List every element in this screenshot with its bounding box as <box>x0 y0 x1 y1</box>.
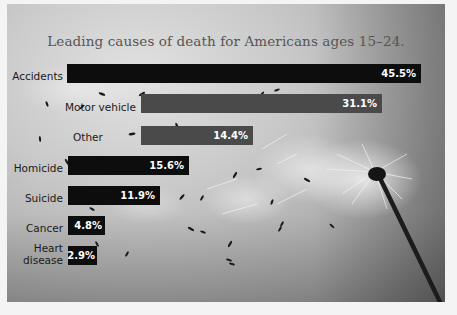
bar-homicide: 15.6% <box>68 156 189 175</box>
chart-title: Leading causes of death for Americans ag… <box>7 33 445 49</box>
category-label: Accidents <box>7 70 63 82</box>
category-label: Cancer <box>7 222 63 234</box>
category-label: Other <box>73 131 103 143</box>
bar-heart-disease: 2.9% <box>68 246 97 265</box>
category-label: Motor vehicle <box>7 101 136 113</box>
category-label: Heart disease <box>7 242 63 266</box>
value-label: 15.6% <box>149 160 189 171</box>
category-label-line2: disease <box>7 254 63 266</box>
bar-motor-vehicle: 31.1% <box>141 94 382 113</box>
value-label: 4.8% <box>74 220 105 231</box>
category-label: Suicide <box>7 192 63 204</box>
bar-other: 14.4% <box>141 126 253 145</box>
value-label: 31.1% <box>342 98 382 109</box>
value-label: 14.4% <box>213 130 253 141</box>
category-label: Homicide <box>7 162 63 174</box>
chart-panel: Leading causes of death for Americans ag… <box>7 4 445 302</box>
bar-suicide: 11.9% <box>68 186 160 205</box>
bar-accidents: 45.5% <box>67 64 421 83</box>
value-label: 11.9% <box>120 190 160 201</box>
category-label-line1: Heart <box>7 242 63 254</box>
value-label: 2.9% <box>67 250 97 261</box>
value-label: 45.5% <box>381 68 421 79</box>
bar-cancer: 4.8% <box>68 216 105 235</box>
